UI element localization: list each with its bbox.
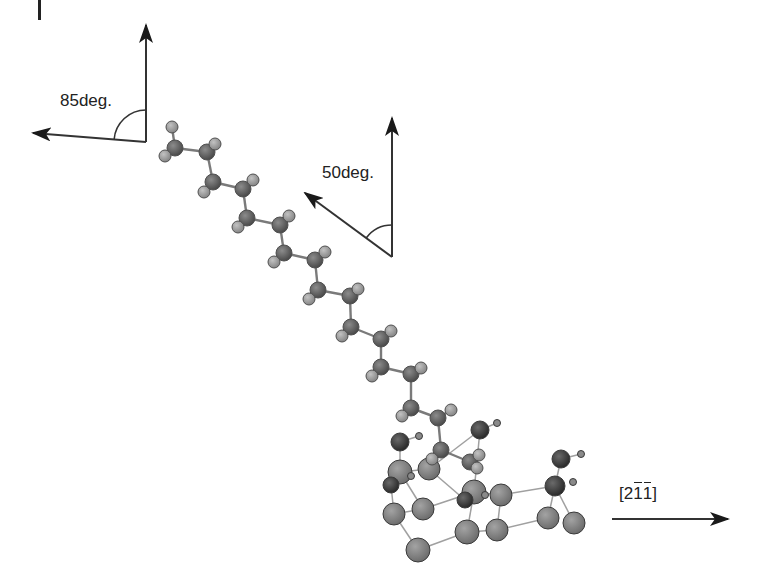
substrate-atom: [406, 538, 430, 562]
hydrogen-atom: [283, 210, 295, 222]
miller-h: 2: [624, 484, 633, 503]
terminal-hydrogen-atom: [416, 433, 423, 440]
substrate-atom: [563, 512, 585, 534]
hydrogen-atom: [198, 186, 210, 198]
angle-label-85: 85deg.: [60, 91, 112, 111]
surface-adatom: [383, 477, 399, 493]
angle-arrows: [33, 25, 728, 519]
substrate-atom: [537, 507, 559, 529]
surface-adatom: [471, 421, 489, 439]
substrate-atom: [412, 498, 434, 520]
substrate-atom: [383, 503, 405, 525]
terminal-hydrogen-atom: [494, 420, 501, 427]
hydrogen-atom: [336, 330, 348, 342]
terminal-hydrogen-atom: [578, 451, 585, 458]
hydrogen-atom: [471, 462, 483, 474]
miller-close: ]: [652, 484, 657, 503]
angle-arc: [366, 225, 392, 238]
direction-label: [211]: [619, 484, 657, 504]
surface-adatom: [552, 450, 570, 468]
angle-label-50: 50deg.: [322, 163, 374, 183]
hydrogen-atom: [385, 325, 397, 337]
terminal-hydrogen-atom: [408, 473, 415, 480]
hydrogen-atom: [159, 150, 171, 162]
miller-l-bar: 1: [643, 484, 652, 504]
surface-atoms: [383, 420, 585, 563]
hydrogen-atom: [396, 410, 408, 422]
miller-k-bar: 1: [633, 484, 642, 504]
substrate-atom: [486, 519, 508, 541]
terminal-hydrogen-atom: [482, 492, 489, 499]
hydrogen-atom: [426, 453, 438, 465]
edge-tick-mark: [38, 0, 41, 20]
hydrogen-atom: [445, 404, 457, 416]
substrate-atom: [455, 520, 479, 544]
surface-adatom: [391, 433, 409, 451]
surface-adatom: [545, 476, 565, 496]
surface-adatom: [457, 492, 473, 508]
hydrogen-atom: [319, 246, 331, 258]
tilt-arrow: [33, 133, 146, 142]
hydrogen-atom: [415, 362, 427, 374]
molecule-diagram: 85deg. 50deg. [211]: [0, 0, 764, 583]
hydrogen-atom: [303, 293, 315, 305]
tilt-arrow: [305, 193, 392, 257]
angle-arc: [114, 110, 146, 140]
substrate-atom: [490, 484, 512, 506]
hydrogen-atom: [232, 221, 244, 233]
hydrogen-atom: [473, 449, 485, 461]
hydrogen-atom: [352, 283, 364, 295]
carbon-atom: [430, 410, 446, 426]
hydrogen-atom: [166, 121, 178, 133]
hydrogen-atom: [209, 138, 221, 150]
hydrogen-atom: [366, 370, 378, 382]
hydrogen-atom: [268, 256, 280, 268]
hydrogen-atom: [247, 174, 259, 186]
terminal-hydrogen-atom: [570, 479, 577, 486]
